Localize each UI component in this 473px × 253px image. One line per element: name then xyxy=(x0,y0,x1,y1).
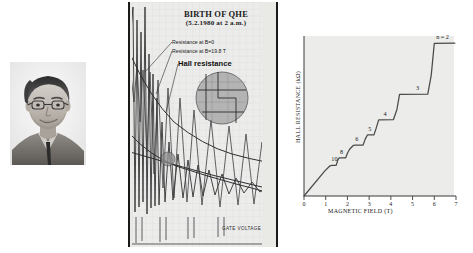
annotation-hall-resistance: Hall resistance xyxy=(178,59,232,68)
portrait-photo xyxy=(10,62,86,165)
x-tick-label: 3 xyxy=(364,201,374,207)
notebook-title-line2: (5.2.1980 at 2 a.m.) xyxy=(160,19,272,28)
plateau-label: 6 xyxy=(355,135,358,142)
x-tick-label: 2 xyxy=(342,201,352,207)
plateau-label: 8 xyxy=(340,148,343,155)
plateau-label: 3 xyxy=(416,84,419,91)
hall-resistance-curve xyxy=(304,43,455,196)
notebook-xaxis-label: GATE VOLTAGE xyxy=(222,226,261,231)
x-tick-label: 6 xyxy=(429,201,439,207)
inset-magnifier xyxy=(196,72,248,124)
plateau-label: 5 xyxy=(368,125,371,132)
annotation-resistance-b198: Resistance at B=19.8 T xyxy=(172,48,226,54)
chart-y-axis-label: HALL RESISTANCE (kΩ) xyxy=(295,52,301,162)
chart-x-axis-label: MAGNETIC FIELD (T) xyxy=(328,208,393,214)
x-tick-label: 0 xyxy=(299,201,309,207)
plateau-label: 4 xyxy=(383,110,386,117)
hall-resistance-chart: 01234567 1086543n = 2 HALL RESISTANCE (k… xyxy=(286,30,461,220)
x-tick-marks xyxy=(304,196,456,200)
figure-root: BIRTH OF QHE (5.2.1980 at 2 a.m.) Resist… xyxy=(0,0,473,253)
notebook-title: BIRTH OF QHE (5.2.1980 at 2 a.m.) xyxy=(160,9,272,28)
plateau-label: n = 2 xyxy=(436,33,449,40)
chart-svg xyxy=(286,30,461,220)
plateau-label: 10 xyxy=(331,155,337,162)
portrait-image xyxy=(10,62,86,165)
x-tick-label: 7 xyxy=(451,201,461,207)
notebook-footer-marks xyxy=(132,217,262,247)
x-tick-label: 4 xyxy=(386,201,396,207)
notebook-title-line1: BIRTH OF QHE xyxy=(160,9,272,19)
x-tick-label: 1 xyxy=(321,201,331,207)
annotation-resistance-b0: Resistance at B=0 xyxy=(172,39,214,45)
x-tick-label: 5 xyxy=(408,201,418,207)
